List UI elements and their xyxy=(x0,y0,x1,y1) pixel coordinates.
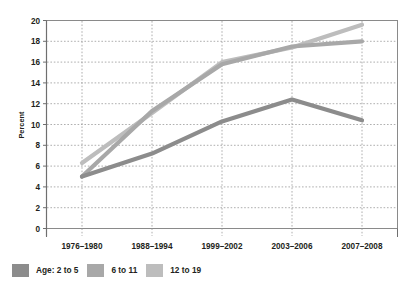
chart-legend: Age: 2 to 5 6 to 11 12 to 19 xyxy=(12,261,210,279)
legend-label: 6 to 11 xyxy=(111,265,137,275)
y-tick-label: 20 xyxy=(31,17,41,26)
y-tick-label: 18 xyxy=(31,37,41,46)
x-tick-label: 1988–1994 xyxy=(132,242,173,251)
y-tick-label: 14 xyxy=(31,79,41,88)
legend-label: Age: 2 to 5 xyxy=(36,265,78,275)
y-axis-title: Percent xyxy=(17,111,26,139)
chart-figure: 20 18 16 14 12 10 8 6 4 2 0 Percent 1976… xyxy=(0,0,417,284)
y-tick-label: 8 xyxy=(35,141,40,150)
legend-item-12-to-19: 12 to 19 xyxy=(146,264,201,277)
x-tick-label: 1999–2002 xyxy=(202,242,243,251)
legend-item-age-2-to-5: Age: 2 to 5 xyxy=(12,264,78,277)
x-tick-label: 1976–1980 xyxy=(62,242,103,251)
legend-swatch-icon xyxy=(87,264,104,277)
y-tick-label: 6 xyxy=(35,162,40,171)
y-tick-label: 0 xyxy=(35,225,40,234)
x-tick-label: 2003–2006 xyxy=(272,242,313,251)
legend-swatch-icon xyxy=(146,264,163,277)
plot-area: 20 18 16 14 12 10 8 6 4 2 0 Percent 1976… xyxy=(0,0,417,284)
y-tick-label: 10 xyxy=(31,121,41,130)
x-tick-label: 2007–2008 xyxy=(342,242,383,251)
legend-item-6-to-11: 6 to 11 xyxy=(87,264,137,277)
line-chart-svg: 20 18 16 14 12 10 8 6 4 2 0 Percent 1976… xyxy=(0,0,417,284)
y-tick-label: 2 xyxy=(35,204,40,213)
y-tick-label: 16 xyxy=(31,58,41,67)
y-tick-label: 4 xyxy=(35,183,40,192)
legend-label: 12 to 19 xyxy=(170,265,201,275)
y-tick-label: 12 xyxy=(31,100,41,109)
legend-swatch-icon xyxy=(12,264,29,277)
